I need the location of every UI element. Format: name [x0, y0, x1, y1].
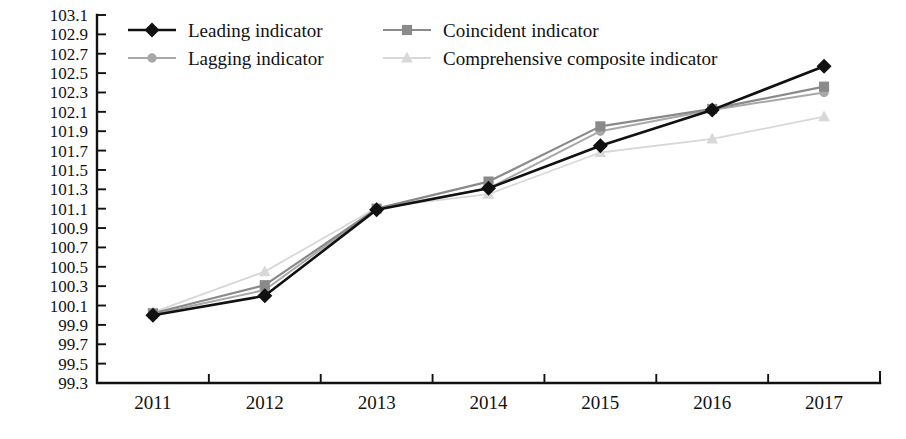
legend-label: Leading indicator	[188, 20, 323, 41]
legend-label: Comprehensive composite indicator	[443, 48, 718, 69]
legend-marker-square-icon	[402, 25, 412, 35]
y-axis-tick-label: 100.1	[50, 297, 88, 316]
y-axis-tick-label: 99.7	[58, 335, 88, 354]
plot-series	[145, 59, 831, 323]
x-axis-tick-marks	[209, 374, 880, 383]
legend-label: Coincident indicator	[443, 20, 599, 41]
x-axis-tick-label: 2015	[581, 392, 619, 413]
axis-lines	[97, 15, 880, 383]
series-lagging-indicator	[148, 88, 829, 319]
x-axis-tick-label: 2016	[693, 392, 731, 413]
legend-item-coincident-indicator[interactable]: Coincident indicator	[383, 20, 599, 41]
y-axis-tick-label: 103.1	[50, 6, 88, 25]
series-line	[153, 87, 824, 314]
y-axis-tick-labels: 103.1102.9102.7102.5102.3102.1101.9101.7…	[50, 6, 89, 393]
series-line	[153, 92, 824, 314]
y-axis-tick-label: 100.7	[50, 238, 89, 257]
line-chart: 103.1102.9102.7102.5102.3102.1101.9101.7…	[0, 0, 906, 439]
y-axis-tick-label: 100.3	[50, 277, 88, 296]
x-axis-tick-labels: 2011201220132014201520162017	[134, 392, 843, 413]
y-axis-tick-label: 99.5	[58, 355, 88, 374]
y-axis-tick-label: 102.7	[50, 45, 89, 64]
y-axis-tick-label: 100.5	[50, 258, 88, 277]
data-point-marker	[819, 82, 829, 92]
y-axis-tick-label: 101.5	[50, 161, 88, 180]
series-leading-indicator	[145, 59, 831, 323]
legend-item-leading-indicator[interactable]: Leading indicator	[128, 20, 323, 41]
axis-spine	[97, 15, 880, 383]
y-axis-tick-label: 102.1	[50, 103, 88, 122]
legend-label: Lagging indicator	[188, 48, 324, 69]
data-point-marker	[705, 102, 720, 117]
data-point-marker	[818, 111, 830, 122]
y-axis-tick-label: 102.9	[50, 25, 88, 44]
y-axis-tick-label: 100.9	[50, 219, 88, 238]
data-point-marker	[259, 265, 271, 276]
x-axis-tick-label: 2011	[134, 392, 171, 413]
series-comprehensive-composite-indicator	[147, 111, 830, 317]
legend-item-lagging-indicator[interactable]: Lagging indicator	[128, 48, 324, 69]
legend-marker-circle-icon	[147, 53, 156, 62]
y-axis-tick-label: 99.3	[58, 374, 88, 393]
y-axis-tick-label: 101.7	[50, 142, 89, 161]
chart-legend: Leading indicatorCoincident indicatorLag…	[128, 20, 718, 69]
y-axis-tick-label: 101.3	[50, 180, 88, 199]
legend-item-comprehensive-composite-indicator[interactable]: Comprehensive composite indicator	[383, 48, 718, 69]
x-axis-tick-label: 2012	[246, 392, 284, 413]
y-axis-tick-marks	[97, 15, 106, 383]
y-axis-tick-label: 102.3	[50, 83, 88, 102]
x-axis-tick-label: 2013	[358, 392, 396, 413]
y-axis-tick-label: 102.5	[50, 64, 88, 83]
x-axis-tick-label: 2017	[805, 392, 843, 413]
y-axis-tick-label: 101.1	[50, 200, 88, 219]
data-point-marker	[817, 59, 832, 74]
data-point-marker	[595, 121, 605, 131]
series-coincident-indicator	[148, 82, 829, 319]
x-axis-tick-label: 2014	[470, 392, 509, 413]
y-axis-tick-label: 99.9	[58, 316, 88, 335]
series-line	[153, 117, 824, 313]
y-axis-tick-label: 101.9	[50, 122, 88, 141]
chart-canvas: 103.1102.9102.7102.5102.3102.1101.9101.7…	[0, 0, 906, 439]
legend-marker-diamond-icon	[145, 23, 160, 38]
